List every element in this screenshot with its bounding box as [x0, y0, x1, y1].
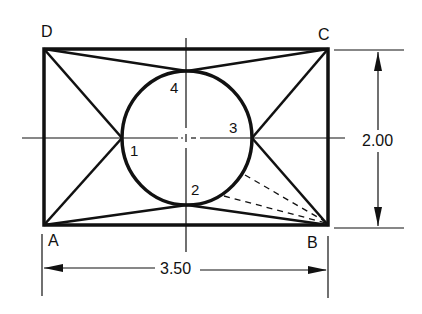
width-dimension-label: 3.50 [158, 261, 193, 277]
tangent-point-label-4: 4 [170, 80, 178, 95]
height-dimension-label: 2.00 [360, 133, 395, 149]
tangent-point-label-1: 1 [130, 143, 138, 158]
vertex-label-c: C [318, 27, 330, 43]
vertex-label-b: B [307, 235, 318, 251]
construction-lines [224, 175, 326, 223]
vertex-label-a: A [48, 233, 59, 249]
tangent-point-label-2: 2 [191, 182, 199, 197]
vertex-label-d: D [41, 24, 53, 40]
diagram-canvas: D C A B 1 2 3 4 2.00 3.50 [0, 0, 422, 314]
diagram-drawing [0, 0, 422, 314]
tangent-point-label-3: 3 [229, 120, 237, 135]
